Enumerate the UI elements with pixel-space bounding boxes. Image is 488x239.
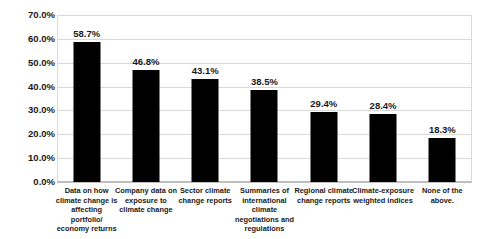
axis-baseline <box>57 182 472 183</box>
bar-value-label: 29.4% <box>310 99 337 109</box>
x-axis-category-label: Summaries of international climate negot… <box>233 186 296 234</box>
bar-value-label: 58.7% <box>73 29 100 39</box>
bar-slot: 29.4% <box>294 15 353 182</box>
bar[interactable] <box>251 90 278 182</box>
bar-slot: 18.3% <box>413 15 472 182</box>
x-axis-category-labels: Data on how climate change is affecting … <box>57 186 472 238</box>
x-axis-category-label: Climate-exposure weighted indices <box>351 186 414 205</box>
x-axis-category-label: None of the above. <box>411 186 474 205</box>
bar[interactable] <box>429 138 456 182</box>
y-axis: 70.0%60.0%50.0%40.0%30.0%20.0%10.0%0.0% <box>0 15 55 182</box>
y-axis-tick-label: 60.0% <box>3 34 55 44</box>
bar-value-label: 28.4% <box>370 101 397 111</box>
bar[interactable] <box>370 114 397 182</box>
x-axis-category-label: Company data on exposure to climate chan… <box>114 186 177 215</box>
y-axis-tick-label: 20.0% <box>3 130 55 140</box>
bar-value-label: 46.8% <box>132 57 159 67</box>
bar-slot: 58.7% <box>57 15 116 182</box>
y-axis-tick-label: 40.0% <box>3 82 55 92</box>
bars-layer: 58.7%46.8%43.1%38.5%29.4%28.4%18.3% <box>57 15 472 182</box>
bar-chart: 70.0%60.0%50.0%40.0%30.0%20.0%10.0%0.0% … <box>0 0 488 239</box>
x-axis-category-label: Sector climate change reports <box>174 186 237 205</box>
x-axis-category-label: Data on how climate change is affecting … <box>55 186 118 234</box>
bar[interactable] <box>73 42 100 182</box>
y-axis-tick-label: 70.0% <box>3 10 55 20</box>
bar-value-label: 38.5% <box>251 77 278 87</box>
bar-slot: 38.5% <box>235 15 294 182</box>
y-axis-tick-label: 50.0% <box>3 58 55 68</box>
bar[interactable] <box>192 79 219 182</box>
bar-value-label: 43.1% <box>192 66 219 76</box>
bar-slot: 46.8% <box>116 15 175 182</box>
bar-value-label: 18.3% <box>429 125 456 135</box>
y-axis-tick-label: 0.0% <box>3 177 55 187</box>
y-axis-tick-label: 10.0% <box>3 153 55 163</box>
bar-slot: 28.4% <box>353 15 412 182</box>
bar[interactable] <box>132 70 159 182</box>
bar-slot: 43.1% <box>176 15 235 182</box>
y-axis-tick-label: 30.0% <box>3 106 55 116</box>
x-axis-category-label: Regional climate change reports <box>292 186 355 205</box>
bar[interactable] <box>310 112 337 182</box>
